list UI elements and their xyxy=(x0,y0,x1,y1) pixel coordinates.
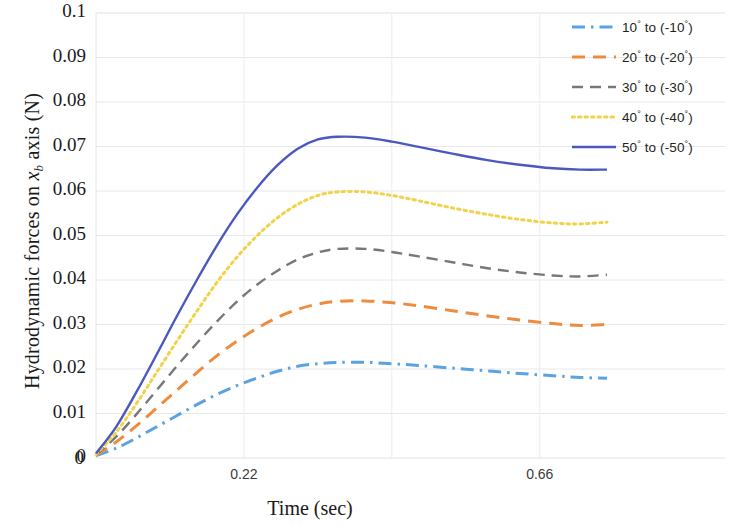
legend-label: 40° to (-40°) xyxy=(617,109,693,125)
legend-label: 50° to (-50°) xyxy=(617,139,693,155)
legend-label: 20° to (-20°) xyxy=(617,49,693,65)
legend-line-sample xyxy=(571,51,617,63)
series-line-5 xyxy=(96,137,607,454)
series-line-3 xyxy=(96,248,607,454)
legend-line-sample xyxy=(571,21,617,33)
legend-line-sample xyxy=(571,81,617,93)
series-line-1 xyxy=(96,362,607,456)
legend-item[interactable]: 20° to (-20°) xyxy=(571,42,731,72)
chart-figure: Hydrodynamic forces on xb axis (N) Time … xyxy=(0,0,731,531)
legend-line-sample xyxy=(571,111,617,123)
legend-item[interactable]: 40° to (-40°) xyxy=(571,102,731,132)
legend-line-sample xyxy=(571,141,617,153)
legend-item[interactable]: 30° to (-30°) xyxy=(571,72,731,102)
legend-label: 10° to (-10°) xyxy=(617,19,693,35)
chart-legend: 10° to (-10°)20° to (-20°)30° to (-30°)4… xyxy=(571,12,731,162)
legend-item[interactable]: 10° to (-10°) xyxy=(571,12,731,42)
legend-label: 30° to (-30°) xyxy=(617,79,693,95)
legend-item[interactable]: 50° to (-50°) xyxy=(571,132,731,162)
